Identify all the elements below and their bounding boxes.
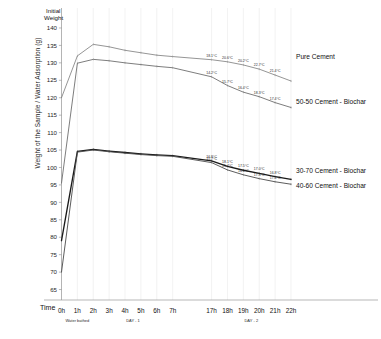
temperature-label: 20.6°C	[222, 56, 233, 60]
x-axis-tick-label: 22h	[286, 307, 297, 314]
temperature-label: 15.7°C	[222, 80, 233, 84]
y-axis-tick-label: 110	[47, 129, 57, 136]
temperature-label: 17.4°C	[270, 176, 281, 180]
x-axis-phase-label: DAY - 2	[244, 318, 258, 323]
x-axis-tick-label: 20h	[254, 307, 265, 314]
temperature-label: 18.3°C	[254, 91, 265, 95]
y-axis-tick-label: 80	[50, 233, 57, 240]
temperature-label: 16.8°C	[270, 171, 281, 175]
temperature-label: 14.2°C	[206, 71, 217, 75]
y-axis-tick-label: 120	[47, 94, 58, 101]
y-axis-tick-label: 130	[47, 59, 58, 66]
x-axis-tick-label: 2h	[90, 307, 98, 314]
legend-label-0: Pure Cement	[296, 53, 335, 60]
chart-canvas: 6570758085909510010511011512012513013514…	[0, 0, 381, 339]
x-axis-tick-label: 4h	[121, 307, 129, 314]
temperature-label: 21.4°C	[270, 69, 281, 73]
temperature-label: 22.7°C	[254, 63, 265, 67]
x-axis-tick-label: 1h	[74, 307, 82, 314]
y-axis-ticks: 6570758085909510010511011512012513013514…	[47, 24, 62, 293]
y-axis-tick-label: 65	[50, 286, 57, 293]
y-axis-tick-label: 115	[47, 111, 57, 118]
x-axis-title: Time	[40, 304, 55, 311]
x-axis-tick-label: 5h	[137, 307, 145, 314]
y-axis-tick-label: 125	[47, 76, 58, 83]
legend-label-1: 50-50 Cement - Biochar	[296, 98, 367, 105]
data-series	[62, 44, 292, 272]
temperature-label: 20.2°C	[238, 59, 249, 63]
x-axis-tick-label: 19h	[238, 307, 249, 314]
x-axis-phase-label: Water bathed	[65, 318, 89, 323]
y-axis-tick-label: 140	[47, 24, 58, 31]
x-axis-tick-label: 6h	[153, 307, 161, 314]
legend: Pure Cement50-50 Cement - Biochar30-70 C…	[296, 53, 367, 189]
initial-weight-label-line1: Initial	[46, 7, 60, 14]
series-line-2	[62, 149, 292, 240]
temperature-label: 16.4°C	[238, 86, 249, 90]
temperature-label: 15.4°C	[222, 164, 233, 168]
x-axis-tick-label: 7h	[169, 307, 177, 314]
temperature-label: 17.5°C	[238, 164, 249, 168]
y-axis-tick-label: 70	[50, 268, 57, 275]
chart-container: 6570758085909510010511011512012513013514…	[0, 0, 381, 339]
x-axis-tick-label: 18h	[222, 307, 233, 314]
legend-label-2: 30-70 Cement - Biochar	[296, 167, 367, 174]
temperature-label: 17.4°C	[270, 97, 281, 101]
y-axis-tick-label: 90	[50, 199, 57, 206]
gridlines	[62, 8, 292, 300]
x-axis-tick-label: 0h	[58, 307, 66, 314]
x-axis-tick-label: 17h	[206, 307, 217, 314]
x-axis-tick-label: 3h	[106, 307, 114, 314]
temperature-label: 15.7°C	[206, 157, 217, 161]
y-axis-tick-label: 75	[50, 251, 57, 258]
temperature-label: 18.1°C	[206, 54, 217, 58]
temperature-label: 17.8°C	[254, 173, 265, 177]
y-axis-tick-label: 95	[50, 181, 57, 188]
y-axis-tick-label: 100	[47, 164, 58, 171]
initial-weight-label-line2: Weight	[44, 14, 63, 21]
x-axis-tick-label: 21h	[270, 307, 281, 314]
x-axis-ticks: 0h1h2h3h4h5h6h7h17h18h19h20h21h22h	[58, 307, 297, 314]
temperature-label: 17.0°C	[254, 167, 265, 171]
x-axis-phase-label: DAY - 1	[126, 318, 140, 323]
y-axis-tick-label: 85	[50, 216, 57, 223]
legend-label-3: 40-60 Cement - Biochar	[296, 182, 367, 189]
temperature-label: 16.1°C	[238, 169, 249, 173]
y-axis-tick-label: 135	[47, 42, 58, 49]
y-axis-tick-label: 105	[47, 146, 58, 153]
series-line-1	[62, 59, 292, 183]
